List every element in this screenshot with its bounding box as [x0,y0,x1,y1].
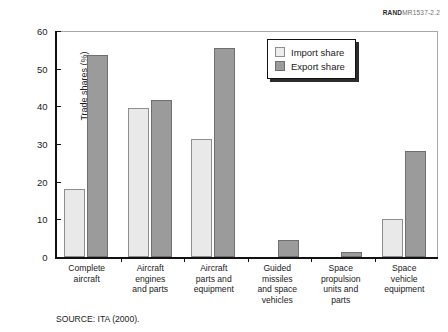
legend-swatch-export-icon [275,61,285,71]
bar-group [375,31,439,257]
x-axis-separator-tick [248,257,249,262]
chart-legend: Import share Export share [267,39,356,79]
y-axis-tick-label: 30 [37,140,48,150]
x-axis-category-label: Aircraft parts and equipment [182,263,246,295]
legend-item-import: Import share [275,45,345,59]
x-axis-separator-tick [311,257,312,262]
x-axis-category-label: Space vehicle equipment [373,263,437,295]
x-axis-separator-tick [121,257,122,262]
bar-export [278,240,299,257]
bar-export [405,151,426,257]
y-axis-tick-label: 20 [37,178,48,188]
x-axis-separator-tick [184,257,185,262]
bar-export [151,100,172,257]
bar-group [121,31,185,257]
figure-id-prefix: RAND [383,9,403,16]
y-axis-tick: 0 [55,257,61,258]
bar-import [64,189,85,257]
x-axis-separator-tick [375,257,376,262]
legend-swatch-import-icon [275,47,285,57]
chart-plot-area: Trade shares (%) 0102030405060 [55,31,438,259]
legend-label-import: Import share [291,47,344,58]
x-axis-category-label: Space propulsion units and parts [309,263,373,305]
bar-import [128,108,149,257]
bar-group [57,31,121,257]
bar-export [341,252,362,257]
x-axis-category-label: Aircraft engines and parts [119,263,183,295]
legend-label-export: Export share [291,61,345,72]
x-axis-category-label: Guided missiles and space vehicles [246,263,310,305]
y-axis-tick-label: 50 [37,65,48,75]
bar-group [184,31,248,257]
x-axis-category-label: Complete aircraft [55,263,119,284]
figure-id: RANDMR1537-2.2 [383,9,440,16]
bar-export [87,55,108,257]
y-axis-tick-label: 60 [37,27,48,37]
bar-import [382,219,403,257]
y-axis-tick-label: 40 [37,103,48,113]
bar-export [214,48,235,257]
figure-id-number: MR1537-2.2 [402,9,440,16]
source-note: SOURCE: ITA (2000). [56,314,139,324]
legend-item-export: Export share [275,59,345,73]
y-axis-tick-label: 0 [42,253,47,263]
y-axis-tick-label: 10 [37,216,48,226]
bar-import [191,139,212,257]
